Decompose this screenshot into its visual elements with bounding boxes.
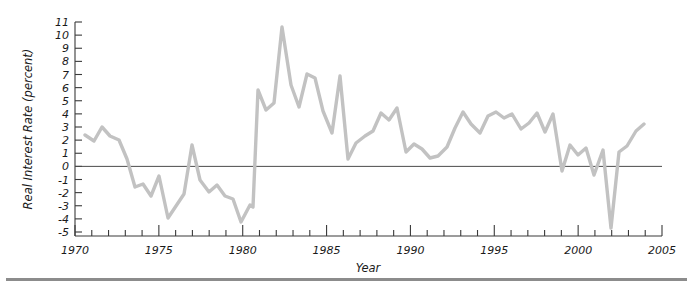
y-tick-label: 6 bbox=[62, 82, 69, 95]
x-tick-label: 1980 bbox=[229, 244, 257, 257]
bottom-divider-rule bbox=[0, 277, 693, 283]
y-tick-label: -3 bbox=[58, 200, 69, 213]
x-tick-label: 2005 bbox=[648, 244, 676, 257]
real-interest-rate-line-chart: 11109876543210-1-2-3-4-5 197019751980198… bbox=[0, 0, 693, 285]
y-tick-label: -1 bbox=[58, 174, 69, 187]
y-tick-label: 0 bbox=[62, 160, 69, 173]
y-tick-label: 2 bbox=[62, 134, 69, 147]
y-tick-label: -4 bbox=[58, 213, 69, 226]
y-tick-label: 11 bbox=[55, 16, 69, 29]
y-axis-title: Real Interest Rate (percent) bbox=[21, 49, 35, 210]
y-tick-label: -2 bbox=[58, 187, 69, 200]
y-tick-label: -5 bbox=[58, 226, 69, 239]
x-tick-label: 2000 bbox=[564, 244, 592, 257]
chart-figure: 11109876543210-1-2-3-4-5 197019751980198… bbox=[0, 0, 693, 285]
y-tick-label: 7 bbox=[62, 69, 69, 82]
x-tick-label: 1990 bbox=[396, 244, 424, 257]
y-tick-label: 9 bbox=[62, 42, 69, 55]
y-tick-label: 5 bbox=[62, 95, 69, 108]
x-tick-label: 1985 bbox=[313, 244, 341, 257]
y-tick-label: 1 bbox=[62, 147, 69, 160]
x-tick-label: 1975 bbox=[145, 244, 173, 257]
y-tick-label: 3 bbox=[62, 121, 69, 134]
y-tick-label: 4 bbox=[62, 108, 69, 121]
x-tick-label: 1995 bbox=[480, 244, 508, 257]
x-tick-label: 1970 bbox=[61, 244, 89, 257]
y-tick-label: 8 bbox=[62, 55, 69, 68]
x-axis-title: Year bbox=[356, 261, 382, 275]
y-tick-label: 10 bbox=[55, 29, 69, 42]
